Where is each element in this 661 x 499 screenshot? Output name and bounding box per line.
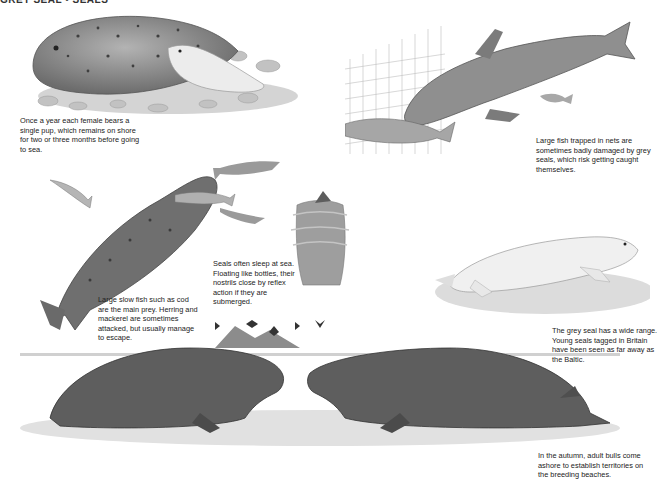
illustration-bulls-facing-off	[20, 318, 620, 448]
caption-nets: Large fish trapped in nets are sometimes…	[536, 136, 651, 174]
caption-sleep: Seals often sleep at sea. Floating like …	[213, 259, 303, 307]
page-header: GREY SEAL • SEALS	[0, 0, 108, 5]
caption-pup: Once a year each female bears a single p…	[20, 116, 145, 154]
illustration-white-pup	[430, 222, 650, 317]
caption-bulls: In the autumn, adult bulls come ashore t…	[538, 451, 648, 480]
illustration-seal-at-net	[345, 14, 645, 154]
illustration-mother-and-pup	[8, 6, 298, 116]
